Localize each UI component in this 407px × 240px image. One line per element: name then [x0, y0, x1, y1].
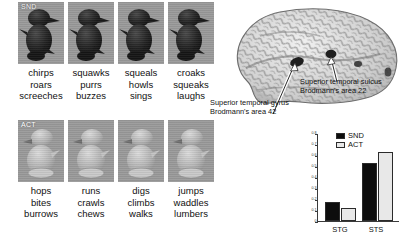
condition-tag-act: ACT — [21, 121, 36, 128]
stimulus-cell: runs crawls chews — [68, 120, 114, 220]
word: squeaks — [168, 79, 214, 91]
word: buzzes — [68, 90, 114, 102]
bird-silhouette-light-image — [168, 120, 214, 182]
word: squawks — [68, 67, 114, 79]
chart-legend: SND ACT — [336, 132, 364, 150]
y-axis-tick-label: 0.5 — [312, 165, 317, 169]
stimulus-row-act: ACT — [0, 120, 212, 238]
bird-dark-icon — [68, 2, 114, 64]
activation-bar-chart: 00.10.20.30.40.50.60.70.8 STGSTS SND ACT — [303, 132, 407, 240]
word: squeals — [118, 67, 164, 79]
bird-light-icon — [118, 120, 164, 182]
word-list: chirps roars screeches — [18, 67, 64, 102]
bar-stg-act — [341, 208, 356, 221]
y-axis-tick-label: 0.3 — [312, 187, 317, 191]
word: screeches — [18, 90, 64, 102]
stimulus-cell: squeals howls sings — [118, 2, 164, 102]
word-list: squeals howls sings — [118, 67, 164, 102]
stimulus-cell: SND — [18, 2, 64, 102]
stimulus-cell: ACT — [18, 120, 64, 220]
annotation-sts: Superior temporal sulcus Brodmann's area… — [300, 78, 382, 95]
word-list: digs climbs walks — [118, 185, 164, 220]
legend-swatch-snd — [336, 133, 345, 139]
stimulus-panel-grid: SND — [0, 0, 212, 240]
word: climbs — [118, 197, 164, 209]
word: crawls — [68, 197, 114, 209]
word: sings — [118, 90, 164, 102]
bird-dark-icon — [118, 2, 164, 64]
bird-silhouette-light-image — [118, 120, 164, 182]
word: howls — [118, 79, 164, 91]
word: runs — [68, 185, 114, 197]
annotation-line: Brodmann's area 42 — [210, 108, 289, 117]
legend-item-snd: SND — [336, 132, 364, 140]
y-axis-tick-label: 0.7 — [312, 143, 317, 147]
stimulus-cell: croaks squeaks laughs — [168, 2, 214, 102]
word: bites — [18, 197, 64, 209]
word: hops — [18, 185, 64, 197]
annotation-stg: Superior temporal gyrus Brodmann's area … — [210, 99, 289, 116]
word: purrs — [68, 79, 114, 91]
word-list: runs crawls chews — [68, 185, 114, 220]
bird-light-icon — [168, 120, 214, 182]
word-list: croaks squeaks laughs — [168, 67, 214, 102]
bird-light-icon — [68, 120, 114, 182]
stimulus-cell: digs climbs walks — [118, 120, 164, 220]
bird-dark-icon — [168, 2, 214, 64]
word: walks — [118, 208, 164, 220]
bird-light-icon — [18, 120, 64, 182]
x-axis-label-stg: STG — [332, 225, 347, 234]
word: chews — [68, 208, 114, 220]
word: croaks — [168, 67, 214, 79]
bird-silhouette-dark-image — [118, 2, 164, 64]
word-list: jumps waddles lumbers — [168, 185, 214, 220]
bar-sts-act — [378, 152, 393, 221]
bar-stg-snd — [325, 202, 340, 221]
word: burrows — [18, 208, 64, 220]
legend-label-snd: SND — [348, 132, 364, 140]
stimulus-row-snd: SND — [0, 2, 212, 120]
y-axis-tick-label: 0.6 — [312, 154, 317, 158]
word: roars — [18, 79, 64, 91]
word: waddles — [168, 197, 214, 209]
bird-dark-icon — [18, 2, 64, 64]
y-axis-tick-label: 0.4 — [312, 176, 317, 180]
word: jumps — [168, 185, 214, 197]
word: laughs — [168, 90, 214, 102]
bird-silhouette-light-image: ACT — [18, 120, 64, 182]
bird-silhouette-dark-image — [68, 2, 114, 64]
x-axis-labels: STGSTS — [317, 224, 399, 238]
y-axis-tick-label: 0.2 — [312, 198, 317, 202]
x-axis-label-sts: STS — [369, 225, 384, 234]
word-list: squawks purrs buzzes — [68, 67, 114, 102]
bird-silhouette-light-image — [68, 120, 114, 182]
bird-silhouette-dark-image — [168, 2, 214, 64]
bar-sts-snd — [362, 163, 377, 221]
legend-label-act: ACT — [348, 141, 363, 149]
word: lumbers — [168, 208, 214, 220]
legend-swatch-act — [336, 142, 345, 148]
legend-item-act: ACT — [336, 141, 364, 149]
bird-silhouette-dark-image: SND — [18, 2, 64, 64]
annotation-line: Brodmann's area 22 — [300, 87, 382, 96]
brain-render: Superior temporal gyrus Brodmann's area … — [216, 2, 407, 142]
word-list: hops bites burrows — [18, 185, 64, 220]
stimulus-cell: squawks purrs buzzes — [68, 2, 114, 102]
y-axis-tick-label: 0.8 — [312, 132, 317, 136]
word: chirps — [18, 67, 64, 79]
word: digs — [118, 185, 164, 197]
stimulus-cell: jumps waddles lumbers — [168, 120, 214, 220]
figure-root: SND — [0, 0, 407, 240]
condition-tag-snd: SND — [21, 3, 37, 10]
y-axis-tick-label: 0.1 — [312, 209, 317, 213]
